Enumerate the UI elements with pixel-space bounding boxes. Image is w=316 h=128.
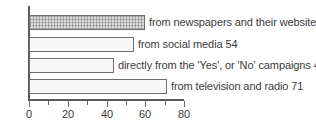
bar-label-social-media: from social media 54 (138, 37, 238, 52)
x-tick-minor-10 (48, 101, 49, 105)
x-tick-major-60 (145, 101, 146, 107)
bar-television-radio (29, 79, 167, 94)
bar-label-television-radio: from television and radio 71 (171, 79, 303, 94)
bar-campaigns (29, 58, 114, 73)
x-tick-label-40: 40 (101, 108, 113, 120)
x-tick-major-80 (184, 101, 185, 107)
horizontal-bar-chart: from newspapers and their websites 60 fr… (0, 0, 316, 128)
x-tick-minor-70 (165, 101, 166, 105)
bar-newspapers (29, 15, 145, 30)
x-tick-minor-30 (87, 101, 88, 105)
x-tick-major-20 (68, 101, 69, 107)
x-tick-label-0: 0 (26, 108, 32, 120)
x-tick-label-60: 60 (139, 108, 151, 120)
bar-social-media (29, 37, 134, 52)
x-tick-label-80: 80 (178, 108, 190, 120)
x-tick-major-0 (29, 101, 30, 107)
x-tick-label-20: 20 (62, 108, 74, 120)
bar-label-newspapers: from newspapers and their websites 60 (149, 15, 316, 30)
plot-area: from newspapers and their websites 60 fr… (0, 0, 316, 128)
x-axis-line (28, 99, 184, 101)
x-tick-major-40 (107, 101, 108, 107)
bar-label-campaigns: directly from the 'Yes', or 'No' campaig… (118, 58, 316, 73)
x-tick-minor-50 (126, 101, 127, 105)
